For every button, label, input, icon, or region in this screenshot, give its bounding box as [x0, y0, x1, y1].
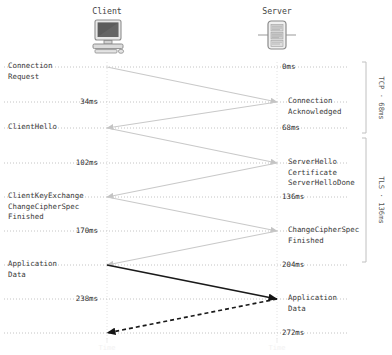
- row-left-label-application-data-out: Application Data: [8, 259, 57, 280]
- row-left-label-client-key-exchange: ClientKeyExchange ChangeCipherSpec Finis…: [8, 191, 84, 222]
- client-title: Client: [47, 6, 167, 16]
- tls-bracket-label: TLS · 136ms: [377, 176, 386, 224]
- row-right-label-connection-acknowledged: Connection Acknowledged: [288, 96, 341, 117]
- tcp-bracket: [362, 62, 366, 133]
- msg-app-data-in-arrow: [107, 299, 277, 333]
- row-time-left-server-hello: 102ms: [30, 158, 98, 168]
- msg-ccs-finished-arrow: [107, 231, 277, 265]
- row-time-right-connection-request: 0ms: [282, 62, 322, 72]
- server-title: Server: [217, 6, 337, 16]
- server-axis-footer: Time: [237, 344, 317, 352]
- row-time-left-connection-acknowledged: 34ms: [30, 97, 98, 107]
- server-rack-icon: [258, 21, 296, 49]
- tcp-bracket-label: TCP · 68ms: [377, 76, 386, 119]
- lifelines: [107, 62, 277, 340]
- phase-brackets: [362, 62, 366, 262]
- row-time-left-application-data-in: 238ms: [30, 294, 98, 304]
- message-arrows: [107, 67, 277, 333]
- row-right-label-application-data-in: Application Data: [288, 293, 337, 314]
- row-time-right-complete: 272ms: [282, 328, 322, 338]
- row-right-label-server-change-cipher-spec: ChangeCipherSpec Finished: [288, 225, 359, 246]
- msg-server-hello-arrow: [107, 163, 277, 197]
- msg-app-data-out-arrow: [107, 265, 277, 299]
- msg-syn-arrow: [107, 67, 277, 102]
- row-time-right-application-data-out: 204ms: [282, 260, 322, 270]
- row-time-right-client-hello: 68ms: [282, 123, 322, 133]
- row-time-right-client-key-exchange: 136ms: [282, 192, 322, 202]
- desktop-computer-icon: [93, 20, 124, 53]
- msg-syn-ack-arrow: [107, 102, 277, 128]
- row-right-label-server-hello: ServerHello Certificate ServerHelloDone: [288, 157, 355, 188]
- axis-tick-marks: [107, 338, 277, 343]
- msg-client-hello-arrow: [107, 128, 277, 163]
- row-left-label-connection-request: Connection Request: [8, 61, 53, 82]
- client-axis-footer: Time: [67, 344, 147, 352]
- tls-bracket: [362, 138, 366, 262]
- row-left-label-client-hello: ClientHello: [8, 122, 57, 132]
- msg-key-exchange-arrow: [107, 197, 277, 231]
- row-time-left-server-change-cipher-spec: 170ms: [30, 226, 98, 236]
